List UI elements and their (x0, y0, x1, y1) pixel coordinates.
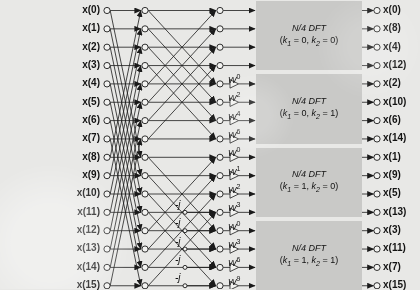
twiddle-symbol: W (228, 258, 237, 268)
input-label: x(4) (2, 78, 100, 88)
dft-block-title-text: N/4 DFT (292, 96, 326, 106)
dft-block-title: N/4 DFT (292, 242, 326, 254)
output-label: x(13) (383, 207, 406, 217)
output-label: x(4) (383, 42, 401, 52)
dft-block-title: N/4 DFT (292, 168, 326, 180)
dft-k1-value: 1 (301, 181, 306, 191)
input-label: x(1) (2, 23, 100, 33)
dft-block[interactable]: N/4 DFT(k1 = 0, k2 = 0) (256, 1, 362, 70)
dft-block-params: (k1 = 1, k2 = 0) (280, 180, 338, 196)
dft-k2-value: 0 (330, 35, 335, 45)
minus-j-label: -j (175, 200, 181, 210)
minus-j-label: -j (175, 273, 181, 283)
dft-block-params: (k1 = 0, k2 = 0) (280, 34, 338, 50)
twiddle-factor-label: W0 (228, 219, 240, 232)
output-label: x(1) (383, 152, 401, 162)
input-label: x(12) (2, 225, 100, 235)
twiddle-symbol: W (228, 112, 237, 122)
dft-k2-value: 1 (330, 108, 335, 118)
dft-block-params: (k1 = 1, k2 = 1) (280, 254, 338, 270)
twiddle-factor-label: W4 (228, 109, 240, 122)
minus-j-label: -j (175, 218, 181, 228)
dft-k1-value: 1 (301, 255, 306, 265)
twiddle-exponent: 0 (237, 220, 241, 227)
input-label: x(5) (2, 97, 100, 107)
input-label: x(7) (2, 133, 100, 143)
twiddle-symbol: W (228, 93, 237, 103)
dft-block-title-text: N/4 DFT (292, 169, 326, 179)
twiddle-exponent: 0 (237, 73, 241, 80)
output-label: x(3) (383, 225, 401, 235)
output-label: x(0) (383, 5, 401, 15)
twiddle-factor-label: W3 (228, 200, 240, 213)
dft-block-params: (k1 = 0, k2 = 1) (280, 107, 338, 123)
twiddle-factor-label: W9 (228, 274, 240, 287)
output-label: x(15) (383, 280, 406, 290)
twiddle-factor-label: W1 (228, 164, 240, 177)
twiddle-exponent: 1 (237, 165, 241, 172)
dft-block-title-text: N/4 DFT (292, 23, 326, 33)
twiddle-exponent: 2 (237, 91, 241, 98)
dft-k2-value: 1 (330, 255, 335, 265)
twiddle-factor-label: W2 (228, 90, 240, 103)
twiddle-symbol: W (228, 240, 237, 250)
twiddle-exponent: 9 (237, 275, 241, 282)
output-label: x(11) (383, 243, 406, 253)
twiddle-symbol: W (228, 277, 237, 287)
twiddle-exponent: 6 (237, 256, 241, 263)
output-label: x(2) (383, 78, 401, 88)
dft-block-title: N/4 DFT (292, 22, 326, 34)
input-label: x(13) (2, 243, 100, 253)
output-label: x(7) (383, 262, 401, 272)
twiddle-factor-label: W0 (228, 72, 240, 85)
twiddle-factor-label: W6 (228, 255, 240, 268)
input-label: x(8) (2, 152, 100, 162)
twiddle-exponent: 4 (237, 110, 241, 117)
dft-k2-value: 0 (330, 181, 335, 191)
twiddle-symbol: W (228, 167, 237, 177)
twiddle-symbol: W (228, 130, 237, 140)
twiddle-symbol: W (228, 75, 237, 85)
twiddle-factor-label: W0 (228, 145, 240, 158)
dft-k1-value: 0 (301, 108, 306, 118)
input-label: x(15) (2, 280, 100, 290)
output-label: x(5) (383, 188, 401, 198)
minus-j-label: -j (175, 255, 181, 265)
output-label: x(12) (383, 60, 406, 70)
twiddle-symbol: W (228, 185, 237, 195)
dft-k1-value: 0 (301, 35, 306, 45)
input-label: x(6) (2, 115, 100, 125)
output-label: x(9) (383, 170, 401, 180)
twiddle-factor-label: W2 (228, 182, 240, 195)
twiddle-exponent: 2 (237, 183, 241, 190)
twiddle-exponent: 0 (237, 146, 241, 153)
twiddle-symbol: W (228, 148, 237, 158)
twiddle-exponent: 6 (237, 128, 241, 135)
twiddle-exponent: 3 (237, 201, 241, 208)
twiddle-factor-label: W6 (228, 127, 240, 140)
input-label: x(11) (2, 207, 100, 217)
input-label: x(3) (2, 60, 100, 70)
minus-j-label: -j (175, 237, 181, 247)
output-label: x(8) (383, 23, 401, 33)
twiddle-symbol: W (228, 222, 237, 232)
twiddle-symbol: W (228, 203, 237, 213)
twiddle-factor-label: W3 (228, 237, 240, 250)
dft-block[interactable]: N/4 DFT(k1 = 1, k2 = 0) (256, 148, 362, 217)
output-label: x(14) (383, 133, 406, 143)
input-label: x(14) (2, 262, 100, 272)
twiddle-exponent: 3 (237, 238, 241, 245)
input-label: x(10) (2, 188, 100, 198)
input-label: x(9) (2, 170, 100, 180)
dft-block-title-text: N/4 DFT (292, 243, 326, 253)
dft-block[interactable]: N/4 DFT(k1 = 1, k2 = 1) (256, 221, 362, 290)
input-label: x(0) (2, 5, 100, 15)
output-label: x(6) (383, 115, 401, 125)
dft-block-title: N/4 DFT (292, 95, 326, 107)
input-label: x(2) (2, 42, 100, 52)
dft-block[interactable]: N/4 DFT(k1 = 0, k2 = 1) (256, 74, 362, 143)
output-label: x(10) (383, 97, 406, 107)
